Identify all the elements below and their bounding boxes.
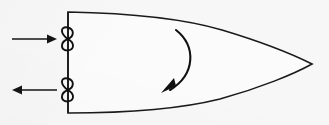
figure-canvas: Twin-screw vessel turning diagram (plan … <box>0 0 329 125</box>
ship-diagram-svg: Twin-screw vessel turning diagram (plan … <box>0 0 329 125</box>
thrust-arrow-ahead-head-icon <box>47 35 57 44</box>
thrust-arrow-astern-head-icon <box>12 86 22 95</box>
thrust-arrow-astern <box>12 86 57 95</box>
thrust-arrow-ahead <box>12 35 57 44</box>
